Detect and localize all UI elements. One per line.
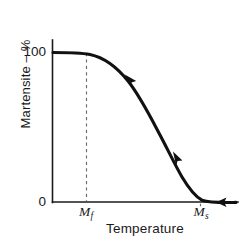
y-axis-tick-label-0: 0 bbox=[0, 195, 46, 209]
mf-letter: M bbox=[79, 204, 90, 219]
y-axis-title: Martensite – % bbox=[16, 14, 36, 154]
martensite-transformation-figure: 100 0 Martensite – % Temperature Mf Ms bbox=[0, 0, 242, 244]
mf-subscript: f bbox=[91, 211, 94, 221]
ms-subscript: s bbox=[205, 211, 209, 221]
y-axis-title-text: Martensite – % bbox=[18, 40, 33, 129]
x-marker-label-mf: Mf bbox=[66, 205, 106, 219]
martensite-curve bbox=[53, 53, 236, 203]
x-marker-label-ms: Ms bbox=[181, 205, 221, 219]
ms-letter: M bbox=[194, 204, 205, 219]
x-axis-title: Temperature bbox=[52, 222, 238, 236]
